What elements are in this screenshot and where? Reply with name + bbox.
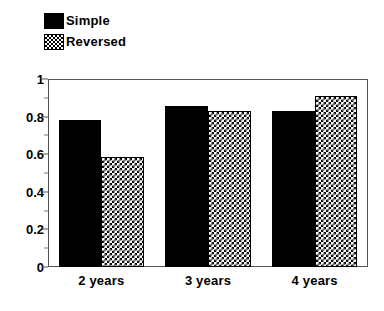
bar-simple-3-years [165, 106, 208, 267]
x-tick-label-4-years: 4 years [292, 274, 338, 287]
x-tick-label-3-years: 3 years [185, 274, 231, 287]
bar-reversed-4-years [315, 96, 358, 267]
legend-label-reversed: Reversed [66, 35, 126, 48]
y-tick-label-0.2: 0.2 [2, 223, 44, 236]
y-tick-label-0.6: 0.6 [2, 148, 44, 161]
y-axis: 1 0.8 0.6 0.4 0.2 0 [0, 0, 44, 311]
legend-item-simple: Simple [44, 10, 204, 31]
legend-item-reversed: Reversed [44, 31, 204, 52]
x-axis: 2 years 3 years 4 years [48, 274, 368, 298]
solid-swatch-icon [44, 13, 64, 29]
bars-layer [48, 79, 368, 267]
bar-simple-2-years [59, 120, 102, 267]
bar-chart: Simple Reversed 1 0.8 0.6 0.4 0.2 0 [0, 0, 384, 311]
legend-label-simple: Simple [66, 14, 110, 27]
chart-legend: Simple Reversed [44, 10, 204, 52]
y-tick-label-0: 0 [2, 261, 44, 274]
checker-swatch-icon [44, 34, 64, 50]
bar-reversed-2-years [101, 157, 144, 267]
x-tick-label-2-years: 2 years [78, 274, 124, 287]
bar-reversed-3-years [208, 111, 251, 267]
y-tick-label-1: 1 [2, 73, 44, 86]
y-tick-label-0.8: 0.8 [2, 110, 44, 123]
bar-simple-4-years [272, 111, 315, 267]
y-tick-label-0.4: 0.4 [2, 185, 44, 198]
